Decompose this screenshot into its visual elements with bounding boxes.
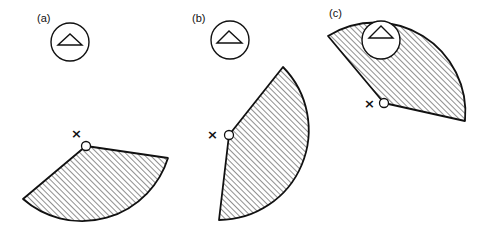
panel-a: (a) × (23, 12, 168, 221)
sensor-b (211, 21, 249, 59)
panel-c-label: (c) (329, 7, 342, 19)
diagram-canvas: (a) × (b) × (c) × (0, 0, 487, 241)
pivot-b (225, 131, 234, 140)
cross-marker-b: × (207, 127, 218, 142)
sector-a (23, 146, 168, 221)
panel-b: (b) × (192, 12, 309, 220)
pivot-a (82, 142, 91, 151)
panel-b-label: (b) (192, 12, 205, 24)
cross-marker-c: × (364, 96, 375, 111)
pivot-c (380, 99, 389, 108)
cross-marker-a: × (71, 126, 82, 141)
sensor-a (51, 23, 89, 61)
sensor-c (362, 21, 400, 59)
panel-a-label: (a) (37, 12, 50, 24)
panel-c: (c) × (328, 7, 465, 121)
sector-b (219, 67, 309, 220)
